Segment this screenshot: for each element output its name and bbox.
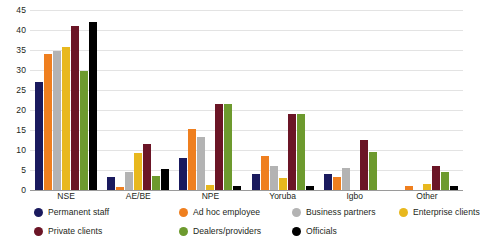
legend-swatch-icon — [179, 208, 188, 217]
bar — [152, 176, 160, 190]
legend-label: Dealers/providers — [193, 226, 261, 236]
bar — [197, 137, 205, 190]
bar — [134, 153, 142, 190]
legend-item-dealers-providers[interactable]: Dealers/providers — [179, 226, 261, 236]
bar — [450, 186, 458, 190]
bar — [116, 187, 124, 190]
bar — [432, 166, 440, 190]
bar — [107, 177, 115, 190]
bars-layer — [30, 0, 463, 200]
bar — [288, 114, 296, 190]
legend-label: Enterprise clients — [413, 207, 480, 217]
bar-group-yoruba — [247, 10, 319, 190]
bar — [215, 104, 223, 190]
bar — [224, 104, 232, 190]
bar — [360, 140, 368, 190]
legend-item-ad-hoc-employee[interactable]: Ad hoc employee — [179, 207, 260, 217]
bar — [441, 172, 449, 190]
y-axis-tick-25: 25 — [16, 85, 26, 95]
legend-item-enterprise-clients[interactable]: Enterprise clients — [399, 207, 480, 217]
x-axis-label-nse: NSE — [57, 191, 74, 201]
legend-swatch-icon — [292, 227, 301, 236]
legend-swatch-icon — [179, 227, 188, 236]
bar — [62, 47, 70, 190]
legend-swatch-icon — [34, 227, 43, 236]
legend-label: Ad hoc employee — [193, 207, 260, 217]
legend-label: Business partners — [306, 207, 376, 217]
legend-item-private-clients[interactable]: Private clients — [34, 226, 102, 236]
bar — [233, 186, 241, 190]
x-axis-label-igbo: Igbo — [346, 191, 363, 201]
bar — [405, 186, 413, 190]
legend-item-officials[interactable]: Officials — [292, 226, 337, 236]
chart-legend: Permanent staffAd hoc employeeBusiness p… — [34, 207, 459, 247]
plot-area: 051015202530354045 — [0, 0, 463, 200]
bar — [297, 114, 305, 190]
legend-label: Private clients — [48, 226, 102, 236]
bar — [35, 82, 43, 190]
x-axis-label-ae-be: AE/BE — [126, 191, 151, 201]
bar — [333, 177, 341, 190]
bar — [423, 184, 431, 190]
bar-group-ae-be — [102, 10, 174, 190]
bar — [89, 22, 97, 190]
y-axis-tick-40: 40 — [16, 25, 26, 35]
bar — [261, 156, 269, 190]
bar — [188, 129, 196, 190]
bar-group-other — [391, 10, 463, 190]
bar — [179, 158, 187, 190]
y-axis-tick-5: 5 — [21, 165, 26, 175]
y-axis-tick-15: 15 — [16, 125, 26, 135]
bar — [44, 54, 52, 190]
y-axis-tick-30: 30 — [16, 65, 26, 75]
legend-swatch-icon — [292, 208, 301, 217]
bar — [270, 166, 278, 190]
bar — [161, 169, 169, 190]
bar — [369, 152, 377, 190]
y-axis-tick-45: 45 — [16, 5, 26, 15]
bar — [71, 26, 79, 190]
y-axis-tick-0: 0 — [21, 185, 26, 195]
bar — [324, 174, 332, 190]
bar — [252, 174, 260, 190]
bar — [53, 51, 61, 190]
x-axis-label-yoruba: Yoruba — [269, 191, 296, 201]
legend-label: Officials — [306, 226, 337, 236]
bar — [342, 168, 350, 190]
bar-group-npe — [174, 10, 246, 190]
x-axis-label-other: Other — [416, 191, 437, 201]
bar — [306, 186, 314, 190]
legend-item-business-partners[interactable]: Business partners — [292, 207, 376, 217]
bar — [80, 71, 88, 190]
legend-label: Permanent staff — [48, 207, 109, 217]
y-axis: 051015202530354045 — [0, 0, 30, 200]
bar-group-nse — [30, 10, 102, 190]
bar — [206, 185, 214, 190]
x-axis-labels: NSEAE/BENPEYorubaIgboOther — [30, 191, 463, 207]
bar — [125, 172, 133, 190]
x-axis-label-npe: NPE — [202, 191, 219, 201]
bar — [279, 178, 287, 190]
bar-group-igbo — [319, 10, 391, 190]
y-axis-tick-10: 10 — [16, 145, 26, 155]
legend-item-permanent-staff[interactable]: Permanent staff — [34, 207, 109, 217]
y-axis-tick-20: 20 — [16, 105, 26, 115]
y-axis-tick-35: 35 — [16, 45, 26, 55]
legend-swatch-icon — [399, 208, 408, 217]
bar — [143, 144, 151, 190]
legend-swatch-icon — [34, 208, 43, 217]
